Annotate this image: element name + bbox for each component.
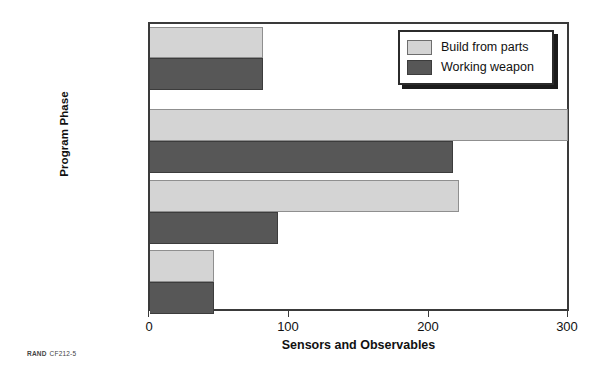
chart-figure: Program Phase Resource Management Acquis… [0,0,612,379]
bar-resource-management-working-weapon [150,58,263,90]
credit-line: RANDCF212-5 [27,350,76,357]
y-axis-title: Program Phase [58,54,70,214]
x-tick-mark [148,311,149,317]
bar-acquisition-working-weapon [150,141,453,173]
x-tick-label-100: 100 [258,319,318,334]
legend-label: Build from parts [441,40,529,54]
x-tick-mark [567,311,568,317]
x-tick-mark [288,311,289,317]
x-axis-title: Sensors and Observables [148,338,569,352]
bar-deployment-build-from-parts [150,250,214,282]
bar-acquisition-build-from-parts [150,109,568,141]
bar-weaponization-working-weapon [150,212,278,244]
bar-deployment-working-weapon [150,282,214,314]
legend-entry-working-weapon[interactable]: Working weapon [407,57,546,77]
legend-label: Working weapon [441,60,534,74]
x-tick-label-200: 200 [398,319,458,334]
x-tick-label-0: 0 [119,319,179,334]
legend-entry-build-from-parts[interactable]: Build from parts [407,37,546,57]
x-tick-mark [428,311,429,317]
legend: Build from parts Working weapon [398,30,554,85]
bar-resource-management-build-from-parts [150,27,263,58]
credit-id: CF212-5 [50,350,77,357]
credit-org: RAND [27,350,47,357]
bar-weaponization-build-from-parts [150,180,459,212]
legend-swatch-icon [407,40,432,55]
legend-swatch-icon [407,60,432,75]
x-tick-label-300: 300 [537,319,597,334]
